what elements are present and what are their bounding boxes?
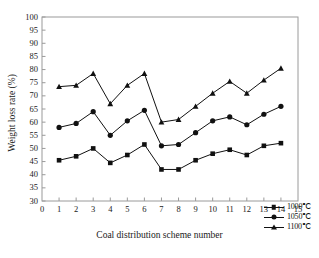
data-point	[193, 130, 198, 135]
data-point	[227, 114, 232, 119]
legend-item-1100c: 1100℃	[264, 222, 311, 232]
data-point	[210, 90, 216, 95]
square-marker-icon	[272, 205, 277, 210]
data-point	[125, 153, 130, 158]
triangle-marker-icon	[271, 225, 277, 230]
data-point	[57, 158, 62, 163]
data-point	[142, 108, 147, 113]
legend: 1000℃ 1050℃ 1100℃	[264, 202, 311, 232]
data-point	[176, 167, 181, 172]
data-point	[261, 112, 266, 117]
data-point	[142, 71, 148, 76]
circle-marker-icon	[271, 215, 276, 220]
legend-line-square	[264, 207, 284, 208]
data-point	[56, 125, 61, 130]
data-point	[125, 118, 130, 123]
data-point	[227, 147, 232, 152]
legend-line-triangle	[264, 227, 284, 228]
data-point	[245, 153, 250, 158]
data-point	[279, 141, 284, 146]
data-point	[74, 121, 79, 126]
data-point	[210, 151, 215, 156]
plot-frame	[42, 17, 298, 201]
data-point	[261, 77, 267, 82]
data-point	[142, 142, 147, 147]
legend-label-1050c: 1050℃	[286, 212, 311, 222]
data-point	[159, 143, 164, 148]
data-point	[90, 71, 96, 76]
chart-figure: Weight loss rate (%) Coal distribution s…	[0, 0, 319, 258]
data-point	[244, 122, 249, 127]
data-point	[159, 167, 164, 172]
legend-item-1000c: 1000℃	[264, 202, 311, 212]
data-point	[108, 161, 113, 166]
legend-label-1000c: 1000℃	[286, 202, 311, 212]
data-point	[108, 133, 113, 138]
legend-label-1100c: 1100℃	[286, 222, 311, 232]
data-point	[91, 146, 96, 151]
data-point	[227, 79, 233, 84]
data-point	[193, 158, 198, 163]
data-point	[278, 65, 284, 70]
legend-item-1050c: 1050℃	[264, 212, 311, 222]
data-point	[74, 154, 79, 159]
data-point	[278, 104, 283, 109]
data-point	[262, 144, 267, 149]
data-point	[91, 109, 96, 114]
data-point	[210, 118, 215, 123]
data-point	[176, 142, 181, 147]
data-point	[124, 82, 130, 87]
legend-line-circle	[264, 217, 284, 218]
